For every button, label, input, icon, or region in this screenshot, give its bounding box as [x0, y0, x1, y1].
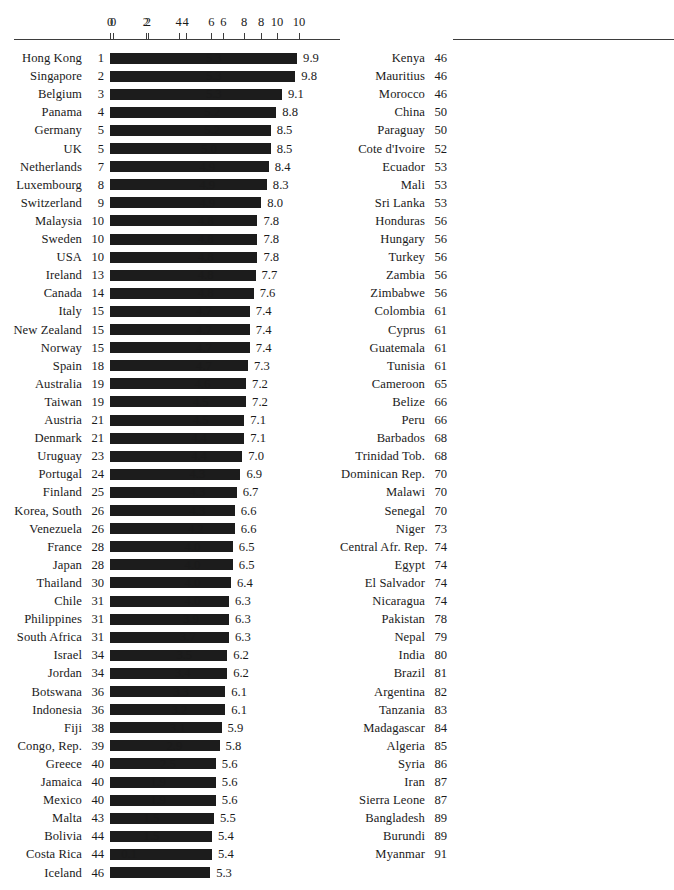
chart-row[interactable]: Trinidad Tob.684.4	[340, 448, 674, 466]
chart-row[interactable]: Mexico405.6	[0, 792, 340, 810]
axis-tick	[186, 33, 187, 40]
row-country-label: Iceland	[0, 866, 82, 881]
chart-row[interactable]: Indonesia366.1	[0, 702, 340, 720]
row-bar	[113, 614, 177, 625]
chart-row[interactable]: Sri Lanka534.9	[340, 195, 674, 213]
row-rank-label: 24	[86, 467, 104, 482]
chart-row[interactable]: Burundi891.5	[340, 828, 674, 846]
row-rank-label: 61	[429, 341, 447, 356]
row-rank-label: 50	[429, 123, 447, 138]
chart-row[interactable]: Belize664.5	[340, 394, 674, 412]
row-rank-label: 46	[429, 87, 447, 102]
row-country-label: China	[340, 105, 425, 120]
chart-row[interactable]: Central Afr. Rep.744.0	[340, 539, 674, 557]
chart-row[interactable]: Peru664.5	[340, 412, 674, 430]
row-value-label: 8.4	[275, 160, 291, 175]
row-value-label: 5.3	[206, 51, 222, 66]
row-rank-label: 28	[86, 558, 104, 573]
chart-row[interactable]: Jamaica405.6	[0, 774, 340, 792]
chart-row[interactable]: Dominican Rep.704.3	[340, 466, 674, 484]
row-value-label: 3.4	[175, 666, 191, 681]
chart-row[interactable]: Myanmar910.1	[340, 846, 674, 864]
chart-row[interactable]: Algeria852.9	[340, 738, 674, 756]
chart-row[interactable]: Egypt744.0	[340, 557, 674, 575]
chart-row[interactable]: Sierra Leone871.9	[340, 792, 674, 810]
row-value-label: 6.1	[231, 703, 247, 718]
chart-row[interactable]: Paraguay505.2	[340, 122, 674, 140]
row-bar	[113, 270, 192, 281]
row-rank-label: 70	[429, 467, 447, 482]
row-value-label: 7.7	[262, 268, 278, 283]
chart-row[interactable]: India803.5	[340, 647, 674, 665]
chart-row[interactable]: Nepal793.7	[340, 629, 674, 647]
row-bar	[113, 161, 193, 172]
chart-row[interactable]: Barbados684.4	[340, 430, 674, 448]
chart-row[interactable]: Bolivia445.4	[0, 828, 340, 846]
row-country-label: France	[0, 540, 82, 555]
chart-row[interactable]: Bangladesh891.5	[340, 810, 674, 828]
chart-row[interactable]: El Salvador744.0	[340, 575, 674, 593]
chart-row[interactable]: Botswana366.1	[0, 684, 340, 702]
chart-row[interactable]: Guatemala614.7	[340, 340, 674, 358]
row-value-label: 4.8	[198, 232, 214, 247]
chart-row[interactable]: Mauritius465.3	[340, 68, 674, 86]
chart-row[interactable]: Madagascar843.1	[340, 720, 674, 738]
row-country-label: Spain	[0, 359, 82, 374]
chart-row[interactable]: Zimbabwe564.8	[340, 285, 674, 303]
row-bar	[113, 831, 138, 842]
row-value-label: 1.9	[150, 793, 166, 808]
row-country-label: Malaysia	[0, 214, 82, 229]
chart-row[interactable]: Malawi704.3	[340, 484, 674, 502]
row-rank-label: 26	[86, 504, 104, 519]
chart-row[interactable]: Zambia564.8	[340, 267, 674, 285]
row-value-label: 4.0	[185, 594, 201, 609]
chart-row[interactable]: Senegal704.3	[340, 503, 674, 521]
row-country-label: Australia	[0, 377, 82, 392]
row-value-label: 6.1	[231, 685, 247, 700]
row-value-label: 0.1	[121, 847, 137, 862]
chart-row[interactable]: Kenya465.3	[340, 50, 674, 68]
row-bar	[113, 722, 164, 733]
chart-row[interactable]: Iceland465.3	[0, 865, 340, 883]
chart-row[interactable]: Tanzania833.2	[340, 702, 674, 720]
chart-row[interactable]: China505.2	[340, 104, 674, 122]
row-bar	[113, 360, 190, 371]
chart-row[interactable]: Pakistan783.9	[340, 611, 674, 629]
chart-row[interactable]: Morocco465.3	[340, 86, 674, 104]
row-country-label: Philippines	[0, 612, 82, 627]
row-value-label: 4.9	[199, 178, 215, 193]
chart-row[interactable]: Brazil813.4	[340, 665, 674, 683]
chart-row[interactable]: Colombia614.7	[340, 303, 674, 321]
chart-row[interactable]: Argentina823.3	[340, 684, 674, 702]
row-rank-label: 84	[429, 721, 447, 736]
row-value-label: 4.8	[198, 250, 214, 265]
row-rank-label: 39	[86, 739, 104, 754]
chart-row[interactable]: Jordan346.2	[0, 665, 340, 683]
chart-row[interactable]: Nicaragua744.0	[340, 593, 674, 611]
chart-row[interactable]: Hungary564.8	[340, 231, 674, 249]
row-rank-label: 87	[429, 793, 447, 808]
chart-row[interactable]: Iran871.9	[340, 774, 674, 792]
chart-row[interactable]: Niger734.2	[340, 521, 674, 539]
row-rank-label: 28	[86, 540, 104, 555]
row-value-label: 4.7	[196, 359, 212, 374]
row-value-label: 7.0	[248, 449, 264, 464]
chart-row[interactable]: Honduras564.8	[340, 213, 674, 231]
row-country-label: Belize	[340, 395, 425, 410]
chart-row[interactable]: Ecuador534.9	[340, 159, 674, 177]
chart-row[interactable]: Costa Rica445.4	[0, 846, 340, 864]
row-rank-label: 36	[86, 685, 104, 700]
chart-row[interactable]: Tunisia614.7	[340, 358, 674, 376]
chart-row[interactable]: Cote d'Ivoire525.0	[340, 141, 674, 159]
row-country-label: Kenya	[340, 51, 425, 66]
row-country-label: Mexico	[0, 793, 82, 808]
chart-row[interactable]: Syria862.5	[340, 756, 674, 774]
chart-row[interactable]: Turkey564.8	[340, 249, 674, 267]
chart-row[interactable]: Cyprus614.7	[340, 322, 674, 340]
row-bar	[113, 487, 184, 498]
row-bar	[113, 523, 182, 534]
chart-row[interactable]: Malta435.5	[0, 810, 340, 828]
chart-row[interactable]: Cameroon654.6	[340, 376, 674, 394]
row-value-label: 4.9	[199, 196, 215, 211]
chart-row[interactable]: Mali534.9	[340, 177, 674, 195]
